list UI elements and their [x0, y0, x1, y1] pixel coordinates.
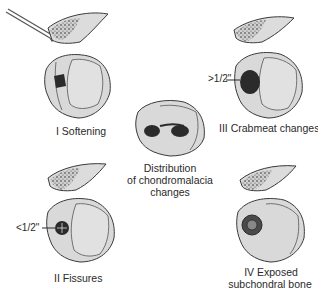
stage-4-label-line1: IV Exposed — [226, 266, 316, 278]
stage-2-measure-label: <1/2" — [16, 222, 39, 233]
stage-3-measure-label: >1/2" — [208, 73, 231, 84]
stage-3-label: III Crabmeat changes — [219, 122, 318, 134]
stage-2-patella-icon — [42, 199, 114, 263]
stage-4-cartilage-section-icon — [240, 166, 296, 191]
stage-1-label: I Softening — [56, 125, 106, 137]
stage-1-cartilage-section-icon — [48, 13, 108, 43]
stage-3-cartilage-section-icon — [234, 17, 294, 43]
center-caption-line1: Distribution — [130, 162, 210, 174]
center-caption-line2: of chondromalacia — [120, 174, 220, 186]
center-patella-icon — [136, 100, 205, 156]
stage-3-patella-icon — [226, 53, 302, 119]
stage-4-label-line2: subchondral bone — [222, 278, 318, 290]
stage-1-patella-icon — [45, 55, 111, 118]
stage-2-cartilage-section-icon — [48, 164, 106, 191]
stage-4-patella-icon — [237, 199, 305, 263]
stage-2-label: II Fissures — [54, 272, 102, 284]
stage-1-probe-icon — [6, 9, 58, 41]
diagram-artwork — [0, 0, 318, 295]
center-caption-line3: changes — [130, 186, 210, 198]
